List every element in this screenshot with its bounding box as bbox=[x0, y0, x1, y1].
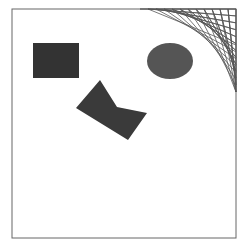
figure-caption bbox=[14, 241, 234, 251]
dark-rectangle-shape bbox=[33, 43, 79, 78]
figure-canvas bbox=[0, 0, 247, 252]
gray-ellipse-shape bbox=[147, 43, 193, 79]
